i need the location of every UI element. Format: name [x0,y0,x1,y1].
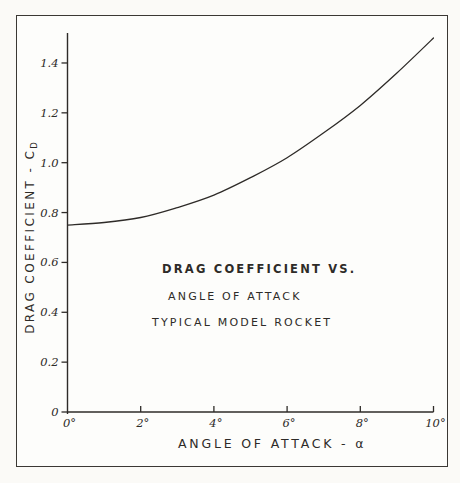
y-tick-label: 1.2 [33,106,59,120]
x-tick-label: 8° [348,416,376,430]
y-axis-title-text: DRAG COEFFICIENT - C [23,149,37,334]
chart-canvas [0,0,460,483]
x-tick-label: 0° [56,416,84,430]
y-tick-label: 1.4 [33,56,59,70]
x-tick-label: 2° [129,416,157,430]
x-axis-title: ANGLE OF ATTACK - α [178,436,366,451]
x-tick-label: 4° [202,416,230,430]
y-axis-title: DRAG COEFFICIENT - CD [23,142,39,334]
drag-curve [68,38,434,225]
scanned-figure-page: 00.20.40.60.81.01.21.40°2°4°6°8°10° DRAG… [0,0,460,483]
tick-marks [62,63,434,412]
annotation-line-3: TYPICAL MODEL ROCKET [152,316,332,329]
annotation-line-2: ANGLE OF ATTACK [168,290,302,303]
y-tick-label: 0.2 [33,355,59,369]
x-tick-label: 6° [275,416,303,430]
y-axis-title-subscript: D [29,142,39,149]
annotation-line-1: DRAG COEFFICIENT VS. [162,262,356,276]
x-tick-label: 10° [422,416,450,430]
drag-coefficient-curve [68,38,434,225]
